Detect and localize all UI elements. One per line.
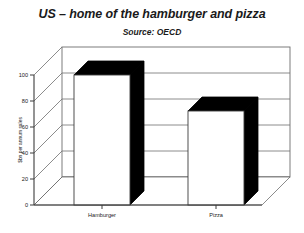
x-axis: Hamburger Pizza	[34, 205, 262, 218]
y-tick-label-0: 0	[25, 202, 28, 208]
x-category-label-pizza: Pizza	[209, 212, 224, 218]
bar-pizza[interactable]	[188, 97, 258, 205]
bar-hamburger-front-face	[74, 75, 130, 205]
depth-connectors	[34, 47, 62, 205]
depth-line-40	[34, 125, 62, 153]
depth-line-20	[34, 151, 62, 179]
y-tick-label-100: 100	[19, 72, 28, 78]
y-tick-label-80: 80	[22, 98, 28, 104]
x-category-label-hamburger: Hamburger	[88, 212, 116, 218]
chart-plot-area: 100 80 60 40 20 0 $bn per annum sales	[0, 0, 304, 233]
bar-pizza-front-face	[188, 111, 244, 205]
y-tick-label-20: 20	[22, 176, 28, 182]
bar-pizza-side-face	[244, 97, 258, 205]
depth-line-60	[34, 99, 62, 127]
depth-line-80	[34, 73, 62, 101]
depth-line-100	[34, 47, 62, 75]
bar-hamburger[interactable]	[74, 61, 144, 205]
y-axis-title: $bn per annum sales	[18, 117, 23, 163]
y-axis: 100 80 60 40 20 0 $bn per annum sales	[18, 72, 34, 208]
chart-figure: US – home of the hamburger and pizza Sou…	[0, 0, 304, 233]
bar-hamburger-side-face	[130, 61, 144, 205]
